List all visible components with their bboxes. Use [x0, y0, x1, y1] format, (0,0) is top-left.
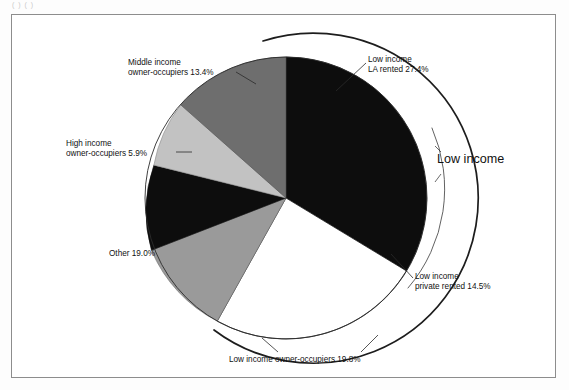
slice-label-line-2: owner-occupiers 13.4%: [128, 68, 214, 78]
slice-label-line-2: LA rented 27.4%: [368, 65, 429, 75]
slice-label-line-1: High income: [66, 139, 112, 148]
slice-label-low-income-la-rented: Low income LA rented 27.4%: [368, 55, 429, 75]
slice-label-line-2: owner-occupiers 5.9%: [66, 149, 147, 159]
scanned-page-background: ( ) ( ) Lo: [0, 0, 569, 390]
leader-line-bracket-low-income-bottom: [435, 174, 441, 182]
leader-line-li-owner-occupiers-right: [361, 335, 378, 352]
slice-label-low-income-owner-occupiers: Low income owner-occupiers 19.8%: [229, 355, 361, 365]
slice-label-high-income-owner-occupiers: High income owner-occupiers 5.9%: [66, 139, 147, 159]
slice-label-line-1: Low income owner-occupiers 19.8%: [229, 355, 361, 364]
slice-label-line-1: Low income: [415, 272, 459, 281]
pie-chart: [0, 0, 569, 390]
slice-label-line-2: private rented 14.5%: [415, 282, 491, 292]
slice-label-line-1: Middle income: [128, 58, 181, 67]
leader-line-li-owner-occupiers: [262, 338, 278, 352]
slice-label-low-income-private-rented: Low income private rented 14.5%: [415, 272, 491, 292]
slice-label-line-1: Low income: [368, 55, 412, 64]
slice-label-other: Other 19.0%: [109, 249, 155, 259]
slice-label-line-1: Other 19.0%: [109, 249, 155, 258]
slice-label-middle-income-owner-occupiers: Middle income owner-occupiers 13.4%: [128, 58, 214, 78]
bracket-label-low-income: Low income: [437, 152, 504, 166]
